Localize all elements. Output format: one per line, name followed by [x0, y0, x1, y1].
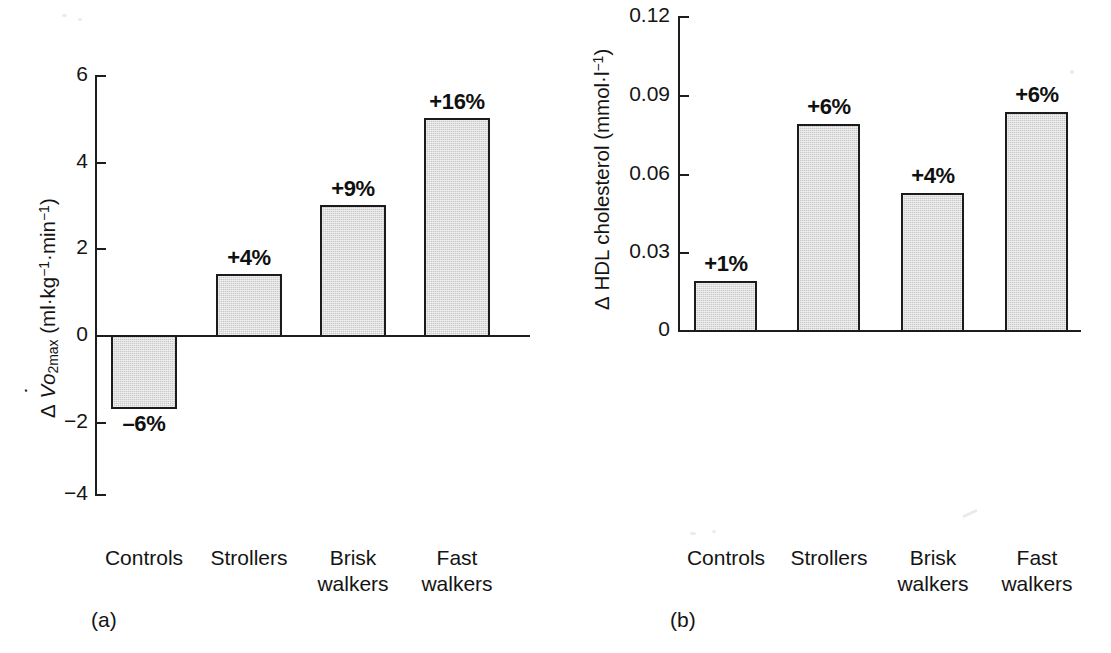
- scan-speckle: [712, 530, 716, 533]
- y-axis-line-a: [95, 75, 97, 496]
- y-tick-a-0: [95, 335, 106, 337]
- y-axis-title-a: Δ Vo2max (ml·kg−1·min−1): [36, 198, 61, 418]
- y-tick-a-m2: [95, 422, 106, 424]
- bar-b-fast-walkers[interactable]: [1005, 112, 1068, 332]
- y-tick-b-003: [678, 252, 689, 254]
- y-tick-label-b-4: 0: [602, 317, 670, 341]
- bar-b-strollers[interactable]: [797, 124, 860, 332]
- x-category-label-a-controls: Controls: [94, 545, 194, 571]
- y-axis-title-a-text: Δ Vo2max (ml·kg−1·min−1): [36, 198, 59, 418]
- y-tick-a-2: [95, 248, 106, 250]
- bar-label-a-strollers: +4%: [213, 245, 285, 271]
- bar-label-b-controls: +1%: [691, 251, 761, 277]
- x-category-label-b-brisk-walkers: Brisk walkers: [883, 545, 983, 598]
- bar-b-brisk-walkers[interactable]: [901, 193, 964, 332]
- panel-letter-b: (b): [670, 608, 696, 632]
- x-category-label-b-fast-walkers: Fast walkers: [987, 545, 1087, 598]
- y-tick-a-4: [95, 162, 106, 164]
- chart-panel-a: 6 4 2 0 −2 −4 Δ Vo2max (ml·kg−1·min−1) –…: [0, 0, 560, 653]
- bar-a-fast-walkers[interactable]: [424, 118, 490, 337]
- bar-a-controls[interactable]: [111, 335, 177, 409]
- bar-label-a-controls: –6%: [111, 411, 177, 437]
- scan-speckle: [690, 532, 696, 535]
- panel-letter-a: (a): [91, 608, 117, 632]
- bar-label-a-fast-walkers: +16%: [417, 89, 497, 115]
- y-tick-label-a-1: 4: [44, 149, 88, 173]
- x-category-label-a-fast-walkers: Fast walkers: [407, 545, 507, 598]
- y-tick-label-a-5: −4: [38, 481, 88, 505]
- x-category-label-a-brisk-walkers: Brisk walkers: [303, 545, 403, 598]
- y-tick-b-012: [678, 16, 689, 18]
- y-tick-label-a-0: 6: [44, 62, 88, 86]
- figure-container: 6 4 2 0 −2 −4 Δ Vo2max (ml·kg−1·min−1) –…: [0, 0, 1111, 653]
- bar-a-strollers[interactable]: [216, 274, 282, 337]
- bar-label-b-brisk-walkers: +4%: [898, 163, 968, 189]
- y-tick-a-6: [95, 75, 106, 77]
- y-tick-label-b-0: 0.12: [602, 3, 670, 27]
- y-axis-title-b: Δ HDL cholesterol (mmol·l−1): [590, 49, 614, 310]
- x-category-label-b-strollers: Strollers: [779, 545, 879, 571]
- bar-label-b-strollers: +6%: [794, 94, 864, 120]
- chart-panel-b: 0.12 0.09 0.06 0.03 0 Δ HDL cholesterol …: [560, 0, 1111, 653]
- y-tick-b-006: [678, 174, 689, 176]
- y-axis-title-b-text: Δ HDL cholesterol (mmol·l−1): [590, 49, 613, 310]
- y-tick-b-0: [678, 330, 689, 332]
- scan-speckle: [1070, 70, 1074, 74]
- y-tick-a-m4: [95, 494, 106, 496]
- x-category-label-a-strollers: Strollers: [199, 545, 299, 571]
- bar-b-controls[interactable]: [694, 281, 757, 332]
- bar-a-brisk-walkers[interactable]: [320, 205, 386, 337]
- scan-speckle: [78, 18, 82, 21]
- bar-label-a-brisk-walkers: +9%: [317, 176, 389, 202]
- x-category-label-b-controls: Controls: [676, 545, 776, 571]
- y-tick-b-009: [678, 95, 689, 97]
- scan-speckle: [62, 14, 67, 17]
- bar-label-b-fast-walkers: +6%: [1002, 82, 1072, 108]
